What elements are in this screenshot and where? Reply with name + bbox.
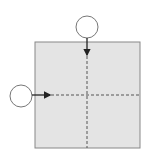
top-circle — [76, 16, 98, 38]
left-circle — [10, 85, 32, 107]
diagram — [0, 0, 150, 159]
